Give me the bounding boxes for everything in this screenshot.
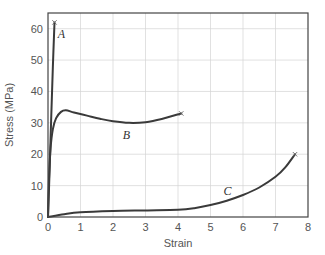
curve-b <box>48 110 181 217</box>
x-axis-ticks: 012345678 <box>45 221 311 233</box>
curve-label-b: B <box>123 128 131 142</box>
x-tick-label: 4 <box>175 221 181 233</box>
x-tick-label: 0 <box>45 221 51 233</box>
curve-label-c: C <box>224 184 233 198</box>
x-axis-title: Strain <box>164 237 193 249</box>
x-tick-label: 2 <box>110 221 116 233</box>
x-tick-label: 1 <box>77 221 83 233</box>
x-tick-label: 3 <box>142 221 148 233</box>
y-tick-label: 30 <box>31 117 43 129</box>
x-tick-label: 7 <box>272 221 278 233</box>
x-tick-label: 8 <box>305 221 311 233</box>
y-axis-ticks: 0102030405060 <box>31 23 43 223</box>
x-tick-label: 5 <box>207 221 213 233</box>
y-tick-label: 0 <box>37 211 43 223</box>
y-tick-label: 20 <box>31 148 43 160</box>
y-tick-label: 50 <box>31 54 43 66</box>
curves <box>48 20 297 217</box>
y-tick-label: 60 <box>31 23 43 35</box>
x-tick-label: 6 <box>240 221 246 233</box>
stress-strain-chart: 012345678 0102030405060 Strain Stress (M… <box>0 0 325 255</box>
y-tick-label: 40 <box>31 85 43 97</box>
curve-labels: ABC <box>57 27 233 198</box>
curve-label-a: A <box>57 27 66 41</box>
y-axis-title: Stress (MPa) <box>3 83 15 147</box>
y-tick-label: 10 <box>31 180 43 192</box>
